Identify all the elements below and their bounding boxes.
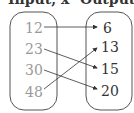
input-value: 12	[25, 20, 43, 36]
input-value: 48	[25, 84, 43, 100]
mapping-diagram: Input, x Output, y 12 23 30 48 6 13 15 2…	[0, 0, 134, 113]
output-value: 20	[101, 83, 119, 99]
output-header: Output, y	[80, 0, 134, 7]
arrow-23-15	[44, 49, 97, 68]
arrow-30-20	[44, 70, 97, 89]
input-header: Input, x	[8, 0, 70, 7]
arrow-48-13	[44, 48, 97, 89]
output-value: 6	[103, 20, 112, 36]
input-value: 23	[25, 41, 43, 57]
output-value: 13	[101, 39, 119, 55]
input-value: 30	[25, 62, 43, 78]
output-value: 15	[101, 61, 119, 77]
